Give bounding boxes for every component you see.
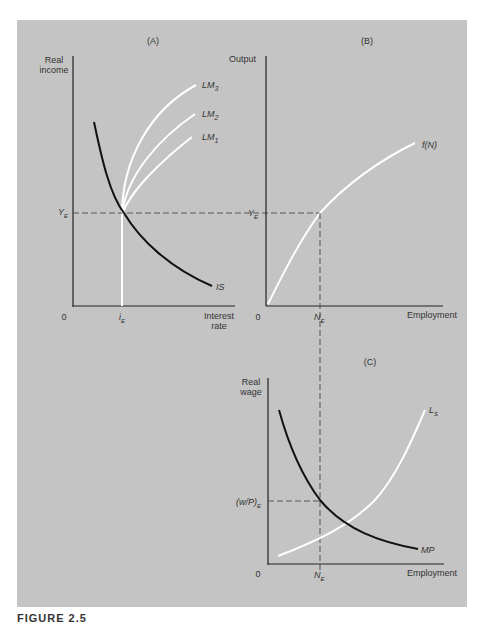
is-curve — [94, 122, 212, 286]
panel-b-x-label: Employment — [407, 310, 458, 320]
panel-c-title: (C) — [364, 357, 377, 367]
panel-a-x-label: Interest — [204, 311, 235, 321]
lm1-curve — [122, 137, 192, 215]
production-function-curve — [268, 143, 415, 304]
figure-svg: (A) Real income 0 Interest rate LM3 LM2 … — [0, 0, 495, 623]
mp-label: MP — [421, 545, 435, 555]
panel-b-origin: 0 — [255, 312, 260, 322]
panel-c-y-label-2: wage — [239, 387, 262, 397]
labor-supply-curve — [278, 410, 425, 556]
panel-c-wp-label: (w/P)E — [236, 497, 262, 509]
panel-b-y-label: Output — [229, 54, 257, 64]
panel-c-y-label: Real — [242, 377, 261, 387]
marginal-product-curve — [279, 410, 418, 549]
is-label: IS — [216, 282, 225, 292]
panel-c-x-label: Employment — [407, 568, 458, 578]
panel-a-origin: 0 — [61, 312, 66, 322]
lm3-label: LM3 — [202, 80, 219, 92]
panel-b-ye-label: YE — [248, 208, 259, 220]
panel-c-origin: 0 — [255, 569, 260, 579]
panel-a-ie-label: iE — [119, 312, 126, 324]
panel-b-ne-label: NE — [314, 312, 326, 324]
fn-label: f(N) — [422, 140, 437, 150]
ls-label: LS — [429, 405, 438, 417]
lm1-label: LM1 — [202, 132, 219, 144]
panel-c-ne-label: NE — [314, 570, 326, 582]
figure-caption: FIGURE 2.5 — [17, 612, 87, 623]
panel-b-title: (B) — [361, 36, 373, 46]
panel-a-title: (A) — [147, 36, 159, 46]
lm2-label: LM2 — [202, 109, 219, 121]
panel-a: (A) Real income 0 Interest rate LM3 LM2 … — [39, 36, 320, 331]
panel-b: (B) Output 0 Employment f(N) YE NE — [229, 36, 458, 570]
panel-a-x-label-2: rate — [211, 321, 227, 331]
panel-a-ye-label: YE — [58, 207, 69, 219]
panel-a-y-label-2: income — [39, 65, 68, 75]
panel-c: (C) Real wage 0 Employment LS MP (w/P)E … — [236, 357, 458, 582]
panel-a-y-label: Real — [45, 55, 64, 65]
